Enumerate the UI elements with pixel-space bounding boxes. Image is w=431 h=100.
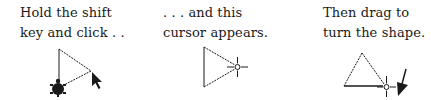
drag-direction-arrow-icon xyxy=(397,69,408,96)
crosshair-cursor-icon xyxy=(377,76,396,97)
turtle-icon xyxy=(50,79,66,97)
triangle-shape xyxy=(59,49,91,85)
arrow-cursor-icon xyxy=(92,72,102,89)
triangle-shape xyxy=(344,53,384,86)
illustration-canvas xyxy=(0,0,431,100)
crosshair-cursor-icon xyxy=(227,57,248,77)
panel-1-figure xyxy=(50,49,102,97)
panel-2-figure xyxy=(204,47,248,87)
panel-3-figure xyxy=(344,53,408,97)
